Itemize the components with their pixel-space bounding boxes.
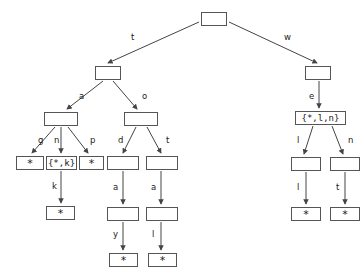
edge-label-n_t2-to-n_a3: a [151,183,156,192]
edge-label-n_o-to-n_t2: t [166,136,169,145]
tree-node-n_k: * [46,206,75,220]
edge-label-n_n2-to-n_t3: t [336,183,339,192]
edge-label-n_n-to-n_k: k [52,182,57,191]
tree-node-n_l3: * [148,253,177,267]
tree-edge [332,126,343,154]
tree-edge [68,127,88,153]
tree-edge [123,127,136,153]
tree-edge [229,22,317,63]
tree-node-n_g: * [16,156,44,170]
tree-edge [304,126,313,154]
tree-node-n_n: {*,k} [46,156,77,170]
tree-edge [67,81,103,109]
edge-label-n_a-to-n_p: p [90,136,95,145]
edge-label-n_t-to-n_a: a [79,92,84,101]
edge-label-n_w-to-n_e: e [309,92,314,101]
edge-label-n_a-to-n_g: g [38,136,43,145]
tree-edge [147,127,161,153]
tree-node-n_n2 [330,157,360,171]
tree-edge [113,81,137,109]
tree-node-n_y: * [109,253,138,267]
edge-label-n_a-to-n_n: n [54,136,59,145]
tree-node-n_p: * [79,156,104,170]
tree-edge [108,22,199,63]
tree-edge [32,127,55,153]
tree-node-n_a2 [107,207,139,221]
edge-label-n_l-to-n_l2: l [297,183,299,192]
edge-label-root-to-n_t: t [131,33,134,42]
edge-label-root-to-n_w: w [284,33,291,42]
edge-label-n_t-to-n_o: o [142,92,147,101]
edge-label-n_e-to-n_l: l [297,136,299,145]
tree-node-n_t3: * [330,207,360,221]
tree-node-n_a [44,112,78,126]
tree-diagram-canvas: {*,l,n}*{*,k}****** twaoegnpdtlnkaaltyl [0,0,364,280]
edge-label-n_d-to-n_a2: a [113,183,118,192]
tree-node-root [201,12,227,26]
edge-label-n_o-to-n_d: d [118,136,123,145]
tree-node-n_a3 [146,207,178,221]
tree-node-n_l [291,157,321,171]
tree-node-n_l2: * [291,207,321,221]
tree-node-n_d [107,156,139,170]
tree-node-n_t2 [146,156,178,170]
edge-label-n_e-to-n_n2: n [348,136,353,145]
tree-node-n_t [95,66,121,80]
tree-node-n_e: {*,l,n} [295,111,346,125]
tree-node-n_o [124,112,158,126]
edge-label-n_a2-to-n_y: y [113,230,118,239]
tree-node-n_w [305,66,331,80]
edge-label-n_a3-to-n_l3: l [152,230,154,239]
